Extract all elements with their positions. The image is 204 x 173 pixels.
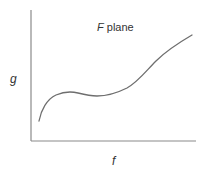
plane-symbol: F <box>97 21 104 33</box>
g-of-f-curve <box>39 35 192 121</box>
x-axis-label: f <box>112 155 115 167</box>
plane-title-text: plane <box>104 21 134 33</box>
plane-title: F plane <box>97 22 134 33</box>
y-axis-label: g <box>10 73 17 85</box>
